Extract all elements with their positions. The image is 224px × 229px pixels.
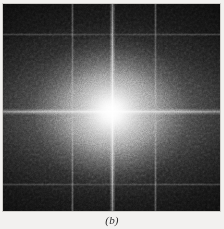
subfigure-label: (b) xyxy=(105,215,118,226)
corner-vignette-layer xyxy=(2,3,221,212)
figure-caption: (b) xyxy=(0,212,224,229)
fourier-spectrum-image xyxy=(2,3,221,212)
figure-panel: (b) xyxy=(0,0,224,229)
